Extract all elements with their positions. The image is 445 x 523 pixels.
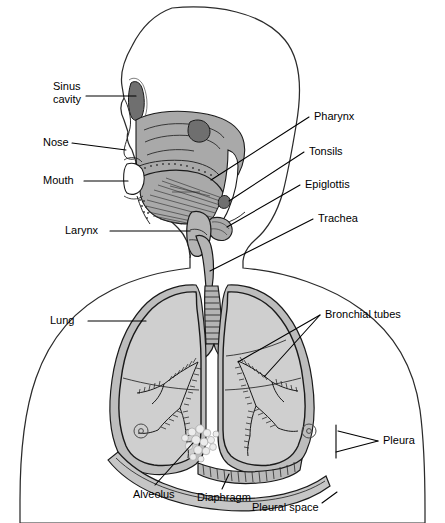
diagram-canvas: Sinus cavity Nose Mouth Larynx Lung Phar… — [0, 0, 445, 523]
sinus-cavity-shape — [128, 82, 144, 121]
label-lung: Lung — [50, 314, 74, 326]
label-nose: Nose — [43, 136, 69, 148]
tonsil-shape — [218, 195, 230, 208]
leader-nose — [72, 143, 126, 150]
label-diaphragm: Diaphragm — [197, 491, 251, 503]
label-trachea: Trachea — [318, 212, 359, 224]
label-pleural-space: Pleural space — [252, 501, 319, 513]
sphenoid-sinus-shape — [188, 120, 210, 142]
respiratory-system-illustration: Sinus cavity Nose Mouth Larynx Lung Phar… — [0, 0, 445, 523]
label-sinus-cavity: Sinus cavity — [53, 80, 84, 105]
label-epiglottis: Epiglottis — [305, 178, 350, 190]
label-larynx: Larynx — [65, 224, 99, 236]
lower-lip — [124, 196, 143, 199]
label-alveolus: Alveolus — [133, 488, 175, 500]
label-mouth: Mouth — [43, 174, 74, 186]
label-bronchial-tubes: Bronchial tubes — [325, 308, 401, 320]
label-pleura: Pleura — [383, 434, 416, 446]
label-tonsils: Tonsils — [309, 145, 343, 157]
label-pharynx: Pharynx — [314, 110, 355, 122]
mouth-opening — [124, 163, 145, 194]
